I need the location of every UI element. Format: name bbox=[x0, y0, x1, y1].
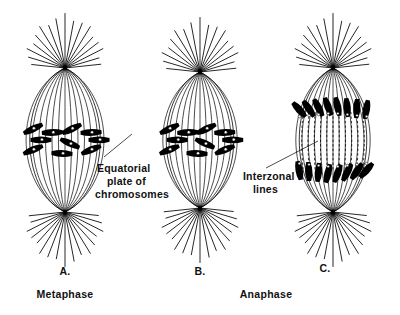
centromere bbox=[99, 138, 102, 141]
centromere bbox=[169, 148, 172, 151]
cell-panel-B bbox=[158, 18, 243, 263]
mitosis-figure: Equatorialplate ofchromosomesInterzonall… bbox=[0, 0, 400, 315]
aster-ray bbox=[305, 212, 333, 243]
phase-label-metaphase: Metaphase bbox=[37, 288, 94, 300]
centromere bbox=[71, 127, 74, 130]
callout-line: plate of bbox=[107, 175, 146, 187]
centromere bbox=[224, 131, 227, 134]
spindle-fiber bbox=[333, 68, 339, 212]
aster-top-A bbox=[27, 14, 103, 71]
centromere bbox=[90, 148, 93, 151]
aster-ray bbox=[333, 212, 362, 245]
callout-line: lines bbox=[253, 183, 278, 195]
centriole-dot bbox=[63, 210, 67, 214]
centromere bbox=[232, 138, 235, 141]
centromere bbox=[327, 112, 330, 115]
aster-bottom-A bbox=[27, 210, 103, 267]
aster-bottom-C bbox=[295, 210, 371, 267]
centromere bbox=[69, 142, 72, 145]
centromere bbox=[308, 114, 311, 117]
centriole-dot bbox=[331, 210, 335, 214]
interzonal-line bbox=[302, 112, 303, 170]
centromere bbox=[327, 165, 330, 168]
centromere bbox=[337, 165, 340, 168]
aster-ray bbox=[65, 37, 93, 68]
callout-line: Equatorial bbox=[97, 162, 150, 174]
centromere bbox=[346, 164, 349, 167]
centromere bbox=[346, 113, 349, 116]
aster-top-C bbox=[295, 14, 371, 71]
cell-panel-A bbox=[22, 14, 110, 267]
aster-ray bbox=[200, 41, 228, 72]
cell-panel-C bbox=[290, 14, 375, 267]
aster-bottom-B bbox=[162, 206, 238, 263]
centromere bbox=[62, 152, 65, 155]
spindle-edge bbox=[333, 68, 367, 212]
panels-layer bbox=[22, 14, 375, 267]
callout-equatorial-plate: Equatorialplate ofchromosomes bbox=[95, 134, 169, 200]
centriole-dot bbox=[198, 70, 202, 74]
aster-ray bbox=[65, 212, 94, 245]
centromere bbox=[317, 164, 320, 167]
aster-ray bbox=[333, 37, 361, 68]
centromere bbox=[177, 138, 180, 141]
centromere bbox=[32, 148, 35, 151]
centromere bbox=[224, 148, 227, 151]
callout-label-equatorial-plate: Equatorialplate ofchromosomes bbox=[95, 162, 169, 200]
centriole-dot bbox=[331, 66, 335, 70]
aster-ray bbox=[171, 39, 200, 72]
mitosis-diagram-canvas: Equatorialplate ofchromosomesInterzonall… bbox=[0, 0, 400, 315]
panel-letter-B: B. bbox=[194, 265, 205, 277]
callout-leader-line bbox=[104, 134, 132, 157]
centromere bbox=[365, 115, 368, 118]
callout-line: chromosomes bbox=[95, 188, 169, 200]
captions-layer: A.B.C.MetaphaseAnaphase bbox=[37, 262, 331, 300]
centriole-dot bbox=[198, 206, 202, 210]
centromere bbox=[308, 163, 311, 166]
interzonal-line bbox=[363, 112, 364, 170]
centromere bbox=[365, 162, 368, 165]
aster-ray bbox=[172, 208, 200, 239]
centromere bbox=[32, 127, 35, 130]
centromere bbox=[298, 115, 301, 118]
centromere bbox=[197, 152, 200, 155]
centriole-dot bbox=[63, 66, 67, 70]
aster-top-B bbox=[162, 18, 238, 75]
centromere bbox=[206, 127, 209, 130]
centromere bbox=[317, 113, 320, 116]
callout-label-interzonal-lines: Interzonallines bbox=[243, 170, 295, 195]
panel-letter-C: C. bbox=[319, 262, 330, 274]
centromere bbox=[356, 114, 359, 117]
centromere bbox=[298, 162, 301, 165]
centromere bbox=[187, 131, 190, 134]
centromere bbox=[91, 131, 94, 134]
phase-label-anaphase: Anaphase bbox=[240, 288, 293, 300]
spindle-edge bbox=[299, 68, 333, 212]
callout-line: Interzonal bbox=[243, 170, 295, 182]
centromere bbox=[356, 163, 359, 166]
centromere bbox=[169, 127, 172, 130]
aster-ray bbox=[304, 35, 333, 68]
centromere bbox=[204, 142, 207, 145]
aster-ray bbox=[36, 35, 65, 68]
centromere bbox=[52, 131, 55, 134]
centromere bbox=[40, 138, 43, 141]
centromere bbox=[337, 112, 340, 115]
panel-letter-A: A. bbox=[59, 265, 70, 277]
spindle-fiber bbox=[327, 68, 333, 212]
aster-ray bbox=[37, 212, 65, 243]
aster-ray bbox=[200, 208, 229, 241]
